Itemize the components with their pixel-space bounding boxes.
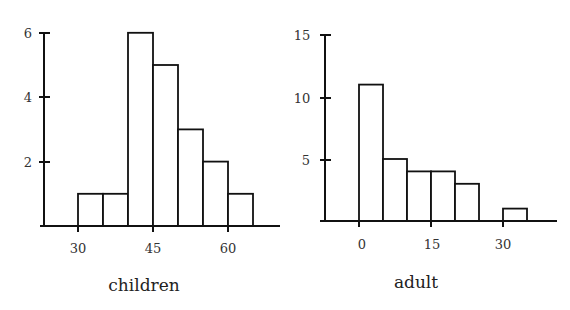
children-ytick-4: 4	[24, 90, 32, 105]
children-xtick-60: 60	[220, 241, 237, 256]
histogram-bar	[431, 171, 455, 221]
histogram-bar	[455, 184, 479, 221]
histogram-bar	[78, 194, 103, 226]
adult-ytick-5: 5	[302, 153, 310, 168]
children-ytick-6: 6	[24, 26, 32, 41]
adult-x-ticks: 0 15 30	[358, 221, 511, 252]
adult-histogram: 5 10 15 0 15 30 adult	[294, 28, 557, 292]
adult-ytick-15: 15	[294, 28, 311, 43]
histogram-bar	[153, 65, 178, 226]
children-xtick-30: 30	[70, 241, 87, 256]
histogram-bar	[383, 159, 407, 221]
children-ytick-2: 2	[24, 155, 32, 170]
adult-xtick-0: 0	[358, 237, 366, 252]
children-y-ticks: 2 4 6	[24, 26, 50, 170]
children-xtick-45: 45	[145, 241, 162, 256]
histogram-bar	[228, 194, 253, 226]
children-x-label: children	[108, 275, 179, 295]
children-histogram: 2 4 6 30 45 60 children	[24, 26, 280, 295]
histogram-bar	[359, 85, 383, 221]
histogram-bar	[503, 209, 527, 221]
adult-xtick-15: 15	[424, 237, 441, 252]
histogram-bar	[178, 129, 203, 226]
adult-xtick-30: 30	[495, 237, 512, 252]
children-x-ticks: 30 45 60	[70, 226, 237, 256]
adult-bars	[359, 85, 527, 221]
adult-ytick-10: 10	[294, 91, 311, 106]
histogram-bar	[203, 162, 228, 226]
children-bars	[78, 33, 253, 226]
histogram-bar	[128, 33, 153, 226]
histogram-bar	[407, 171, 431, 221]
adult-x-label: adult	[394, 272, 438, 292]
histogram-figure: 2 4 6 30 45 60 children 5 10 15	[0, 0, 570, 310]
histogram-bar	[103, 194, 128, 226]
